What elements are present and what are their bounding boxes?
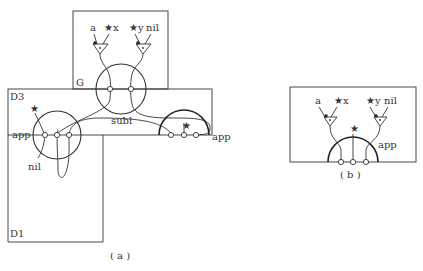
b-triangle-left: [324, 117, 337, 126]
box-g-label: G: [76, 77, 84, 88]
label-star-y: ★y: [129, 22, 144, 33]
diagram-canvas: G D3 D1 a ★x ★y nil subl app ★ nil: [0, 0, 423, 271]
box-d1-label: D1: [10, 228, 24, 239]
label-a: a: [90, 22, 96, 33]
triangle-node-left: [93, 44, 108, 54]
label-app-right: app: [212, 131, 231, 142]
label-nil-bottom: nil: [28, 161, 41, 172]
label-star-right: ★: [182, 120, 191, 131]
b-label-star-x: ★x: [334, 95, 349, 106]
caption-b: ( b ): [340, 169, 361, 180]
b-label-a: a: [315, 95, 321, 106]
b-label-app: app: [378, 139, 397, 150]
box-d1: [8, 135, 103, 242]
label-star-x: ★x: [104, 22, 119, 33]
label-subl: subl: [111, 115, 132, 126]
b-label-star-y: ★y: [366, 95, 381, 106]
figure-a: G D3 D1 a ★x ★y nil subl app ★ nil: [8, 11, 231, 261]
caption-a: ( a ): [110, 250, 130, 261]
label-nil-top: nil: [146, 22, 159, 33]
box-d3-label: D3: [10, 91, 24, 102]
triangle-node-right: [136, 44, 151, 54]
b-triangle-right: [374, 117, 387, 126]
figure-b: a ★x ★y nil ★ app ( b ): [290, 87, 416, 180]
b-label-star-mid: ★: [350, 123, 359, 134]
label-app-left: app: [12, 129, 31, 140]
label-star-left: ★: [30, 103, 39, 114]
b-label-nil: nil: [384, 95, 397, 106]
